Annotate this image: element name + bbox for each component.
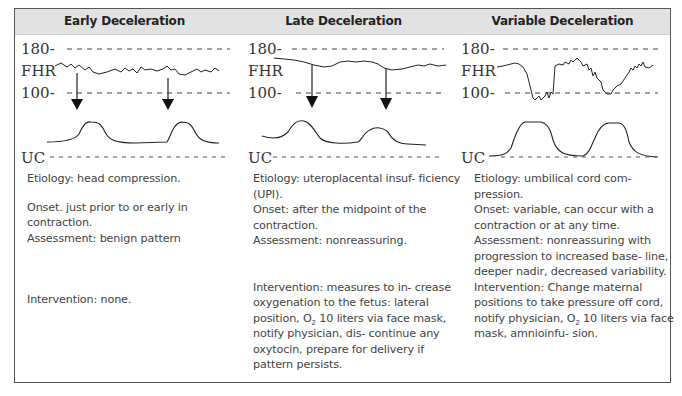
intervention-text: Intervention: measures to in- crease oxy… (253, 280, 461, 373)
late-deceleration-strip: 180- FHR 100- UC (234, 36, 453, 166)
early-deceleration-strip: 180- FHR 100- UC (15, 36, 234, 166)
late-deceleration-details: Etiology: uteroplacental insuf- ficiency… (253, 171, 461, 373)
variable-deceleration-details: Etiology: umbilical cord com- pression. … (474, 171, 682, 342)
fetal-deceleration-table: Early Deceleration Late Deceleration Var… (14, 8, 671, 383)
lower-limit-label: 100- (461, 84, 495, 102)
variable-deceleration-strip: 180- FHR 100- UC (453, 36, 672, 166)
uc-label: UC (21, 149, 45, 166)
lower-limit-label: 100- (248, 84, 282, 102)
title-variable-deceleration: Variable Deceleration (453, 14, 672, 28)
assessment-text: Assessment: benign pattern (27, 231, 235, 247)
onset-text: Onset. just prior to or early in contrac… (27, 200, 235, 231)
arrow-down-icon (162, 99, 174, 110)
upper-limit-label: 180- (248, 40, 282, 58)
intervention-text: Intervention: none. (27, 292, 235, 308)
lower-limit-label: 100- (21, 84, 55, 102)
intervention-text: Intervention: Change maternal positions … (474, 280, 682, 342)
onset-text: Onset: variable, can occur with a contra… (474, 202, 682, 233)
arrow-down-icon (71, 99, 83, 110)
onset-text: Onset: after the midpoint of the contrac… (253, 202, 461, 233)
assessment-text: Assessment: nonreassuring with progressi… (474, 233, 682, 280)
uc-label: UC (248, 149, 272, 166)
title-early-deceleration: Early Deceleration (15, 14, 234, 28)
fhr-label: FHR (461, 62, 496, 80)
fhr-label: FHR (248, 62, 283, 80)
uc-label: UC (461, 149, 485, 166)
etiology-text: Etiology: umbilical cord com- pression. (474, 171, 682, 202)
arrow-down-icon (306, 96, 318, 108)
fhr-label: FHR (21, 62, 56, 80)
upper-limit-label: 180- (21, 40, 55, 58)
etiology-text: Etiology: head compression. (27, 171, 235, 187)
arrow-down-icon (380, 98, 392, 110)
title-late-deceleration: Late Deceleration (234, 14, 453, 28)
early-deceleration-details: Etiology: head compression. Onset. just … (27, 171, 235, 308)
upper-limit-label: 180- (461, 40, 495, 58)
assessment-text: Assessment: nonreassuring. (253, 233, 461, 249)
etiology-text: Etiology: uteroplacental insuf- ficiency… (253, 171, 461, 202)
